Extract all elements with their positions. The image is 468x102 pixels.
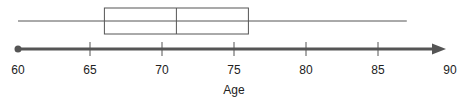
axis-arrow-head bbox=[432, 44, 446, 55]
tick-label: 90 bbox=[443, 63, 457, 77]
tick-label: 65 bbox=[83, 63, 97, 77]
tick-label: 75 bbox=[227, 63, 241, 77]
box-plot bbox=[18, 8, 407, 34]
tick-label: 70 bbox=[155, 63, 169, 77]
box-plot-chart: 60657075808590 Age bbox=[0, 0, 468, 102]
tick-label: 80 bbox=[299, 63, 313, 77]
number-line-axis: 60657075808590 bbox=[11, 42, 457, 77]
tick-label: 60 bbox=[11, 63, 25, 77]
axis-start-dot bbox=[15, 46, 22, 53]
x-axis-title: Age bbox=[223, 83, 245, 97]
tick-label: 85 bbox=[371, 63, 385, 77]
